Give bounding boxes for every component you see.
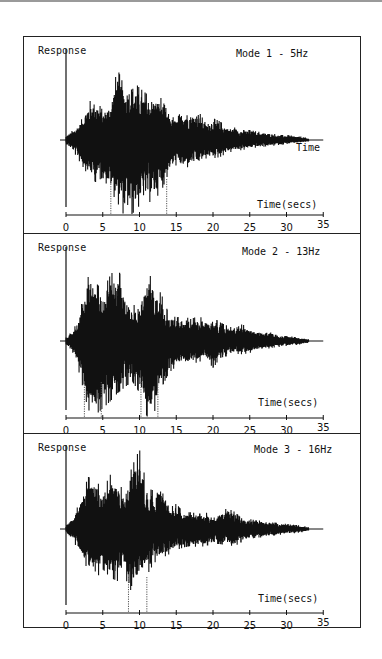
chart-title: Mode 2 - 13Hz	[242, 246, 320, 257]
x-tick-label: 20	[207, 222, 220, 233]
x-tick-label: 35	[317, 617, 330, 628]
x-tick-label: 15	[170, 620, 183, 631]
chart-panel-mode-1: Response Mode 1 - 5Hz Time(secs) Time 05…	[24, 37, 360, 233]
x-axis: 05101520253035	[63, 212, 330, 233]
x-axis-label: Time(secs)	[258, 593, 318, 604]
x-axis-label: Time(secs)	[258, 397, 318, 408]
x-tick-label: 10	[133, 222, 146, 233]
y-axis-label: Response	[38, 242, 86, 253]
chart-plot-mode-3: Response Mode 3 - 16Hz Time(secs) 051015…	[24, 434, 360, 629]
chart-title: Mode 3 - 16Hz	[254, 444, 332, 455]
y-axis-label: Response	[38, 45, 86, 56]
x-tick-label: 35	[317, 422, 330, 433]
x-tick-label: 25	[243, 620, 256, 631]
x-tick-label: 20	[207, 620, 220, 631]
x-tick-label: 15	[170, 222, 183, 233]
x-tick-label: 5	[100, 620, 106, 631]
waveform	[60, 445, 323, 613]
x-axis: 05101520253035	[63, 610, 330, 631]
x-tick-label: 30	[280, 620, 293, 631]
chart-panel-mode-2: Response Mode 2 - 13Hz Time(secs) 051015…	[24, 233, 360, 434]
x-tick-label: 25	[243, 222, 256, 233]
waveform	[60, 247, 323, 418]
chart-plot-mode-2: Response Mode 2 - 13Hz Time(secs) 051015…	[24, 234, 360, 434]
figure-frame: Response Mode 1 - 5Hz Time(secs) Time 05…	[23, 36, 361, 628]
trace-label: Time	[296, 142, 320, 153]
chart-plot-mode-1: Response Mode 1 - 5Hz Time(secs) Time 05…	[24, 37, 360, 233]
x-tick-label: 5	[100, 222, 106, 233]
x-tick-label: 0	[63, 620, 69, 631]
waveform	[60, 49, 323, 215]
y-axis-label: Response	[38, 442, 86, 453]
x-tick-label: 10	[133, 620, 146, 631]
chart-panel-mode-3: Response Mode 3 - 16Hz Time(secs) 051015…	[24, 433, 360, 629]
x-tick-label: 35	[317, 219, 330, 230]
x-tick-label: 0	[63, 222, 69, 233]
x-axis-label: Time(secs)	[257, 199, 317, 210]
chart-title: Mode 1 - 5Hz	[236, 48, 308, 59]
x-tick-label: 30	[280, 222, 293, 233]
top-edge-line	[0, 0, 382, 2]
